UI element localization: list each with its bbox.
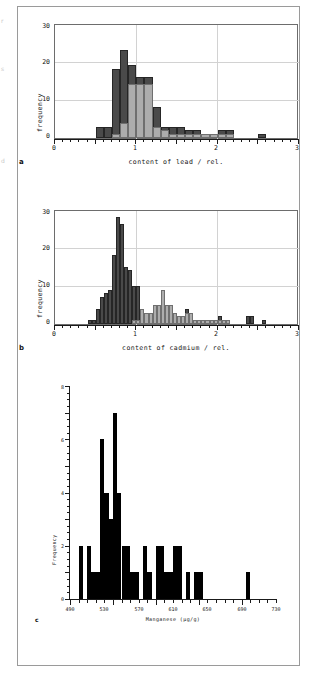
- edge-mark-2: d: [1, 158, 5, 164]
- panel-b-ytick-0: 0: [28, 318, 50, 326]
- x-tick-mark: [209, 325, 210, 328]
- figure-page: r s d frequency 30 20 10 0 0 1 2 3 conte…: [0, 0, 310, 675]
- x-tick-mark: [96, 600, 97, 603]
- x-tick-mark: [250, 600, 251, 603]
- panel-a-plot-area: [54, 24, 298, 139]
- panel-b-ytick-30: 30: [28, 208, 50, 216]
- x-tick-mark: [249, 139, 250, 142]
- bar-light-2: [128, 84, 136, 138]
- x-tick-mark: [200, 139, 201, 142]
- panel-c-bars: [70, 386, 276, 599]
- panel-b-ytick-20: 20: [28, 244, 50, 252]
- panel-c-plot-area: [70, 386, 276, 599]
- x-tick-mark: [200, 325, 201, 328]
- panel-a-xtick-2: 2: [206, 144, 226, 152]
- x-tick-mark: [233, 325, 234, 328]
- bar-solid-23: [177, 546, 181, 599]
- panel-a-bars: [55, 25, 297, 138]
- bar-light-10: [193, 134, 201, 138]
- bar-dark-17: [258, 134, 266, 138]
- x-tick-mark: [139, 600, 140, 603]
- x-tick-mark: [156, 600, 157, 605]
- bar-light-1: [120, 123, 128, 138]
- x-tick-mark: [104, 600, 105, 603]
- x-tick-mark: [190, 600, 191, 603]
- x-tick-mark: [103, 139, 104, 142]
- x-tick-mark: [70, 325, 71, 328]
- figure-panel-a: frequency 30 20 10 0 0 1 2 3 content of …: [28, 10, 300, 182]
- panel-b-xtick-1: 1: [125, 330, 145, 338]
- x-tick-mark: [276, 600, 277, 603]
- panel-b-plot-area: [54, 210, 298, 325]
- bar-light-23: [226, 320, 230, 324]
- panel-a-ytick-10: 10: [28, 95, 50, 103]
- panel-c-xtick-650: 650: [197, 606, 217, 612]
- x-tick-mark: [199, 600, 200, 605]
- panel-c-xtick-690: 690: [232, 606, 252, 612]
- panel-c-ytick-0: 0: [42, 596, 64, 602]
- x-tick-mark: [290, 325, 291, 328]
- x-tick-mark: [87, 325, 88, 328]
- x-tick-mark: [87, 139, 88, 142]
- x-tick-mark: [242, 600, 243, 605]
- x-tick-mark: [168, 139, 169, 142]
- bar-light-7: [169, 134, 177, 138]
- bar-light-4: [144, 84, 152, 138]
- x-tick-mark: [176, 139, 177, 144]
- panel-a-ytick-30: 30: [28, 22, 50, 30]
- figure-panel-c: Frequency 8 6 4 2 0 490 530 570 610 650 …: [36, 380, 286, 660]
- x-tick-mark: [113, 600, 114, 605]
- x-tick-mark: [176, 325, 177, 330]
- panel-b-x-ticks: [54, 325, 298, 331]
- x-tick-mark: [119, 139, 120, 142]
- x-tick-mark: [225, 139, 226, 142]
- panel-a-letter: a: [19, 158, 24, 166]
- panel-a-x-axis-title: content of lead / rel.: [54, 158, 298, 166]
- x-tick-mark: [111, 325, 112, 328]
- x-tick-mark: [182, 600, 183, 603]
- x-tick-mark: [95, 139, 96, 144]
- panel-a-xtick-1: 1: [125, 144, 145, 152]
- edge-mark-0: r: [1, 18, 3, 24]
- bar-dark-1: [104, 127, 112, 139]
- panel-b-ytick-10: 10: [28, 281, 50, 289]
- x-tick-mark: [127, 325, 128, 328]
- x-tick-mark: [78, 325, 79, 328]
- panel-c-x-axis-title: Manganese (µg/g): [70, 616, 276, 622]
- x-tick-mark: [282, 139, 283, 142]
- x-tick-mark: [265, 139, 266, 142]
- bar-solid-28: [199, 572, 203, 599]
- x-tick-mark: [257, 139, 258, 144]
- panel-a-xtick-3: 3: [287, 144, 307, 152]
- x-tick-mark: [143, 325, 144, 328]
- x-tick-mark: [70, 600, 71, 605]
- x-tick-mark: [233, 139, 234, 142]
- panel-c-xtick-610: 610: [163, 606, 183, 612]
- panel-b-x-axis-title: content of cadmium / rel.: [54, 344, 298, 352]
- panel-c-xtick-730: 730: [266, 606, 286, 612]
- x-tick-mark: [225, 325, 226, 328]
- x-tick-mark: [160, 325, 161, 328]
- x-tick-mark: [78, 139, 79, 142]
- x-tick-mark: [192, 139, 193, 142]
- x-tick-mark: [152, 139, 153, 142]
- x-tick-mark: [257, 325, 258, 330]
- x-tick-mark: [143, 139, 144, 142]
- bar-dark-2: [112, 69, 120, 138]
- panel-b-xtick-0: 0: [44, 330, 64, 338]
- x-tick-mark: [249, 325, 250, 328]
- x-tick-mark: [127, 139, 128, 142]
- panel-c-ytick-4: 4: [42, 490, 64, 496]
- panel-a-ytick-20: 20: [28, 58, 50, 66]
- bar-dark-37: [262, 320, 266, 324]
- panel-c-x-ticks: [70, 600, 276, 605]
- x-tick-mark: [282, 325, 283, 328]
- x-tick-mark: [160, 139, 161, 142]
- bar-solid-13: [134, 572, 138, 599]
- x-tick-mark: [259, 600, 260, 603]
- x-tick-mark: [241, 139, 242, 142]
- panel-c-y-axis-title: Frequency: [51, 534, 57, 565]
- x-tick-mark: [152, 325, 153, 328]
- x-tick-mark: [168, 325, 169, 328]
- x-tick-mark: [184, 325, 185, 328]
